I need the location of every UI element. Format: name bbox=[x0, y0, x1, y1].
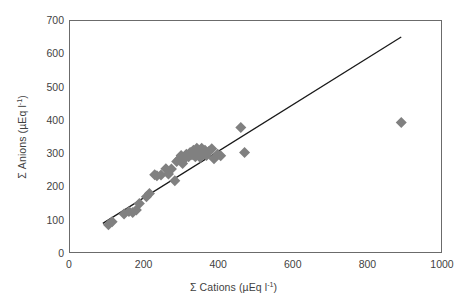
y-axis-title-text: Σ Anions (µEq l bbox=[16, 105, 28, 179]
y-axis-title: Σ Anions (µEq l-1) bbox=[16, 57, 28, 217]
y-tick-label: 400 bbox=[24, 115, 64, 126]
y-tick-label: 700 bbox=[24, 15, 64, 26]
x-tick-label: 200 bbox=[124, 259, 164, 270]
y-axis-title-exponent: -1 bbox=[15, 99, 24, 105]
y-tick-label: 100 bbox=[24, 215, 64, 226]
y-axis-title-tail: ) bbox=[16, 95, 28, 99]
plot-area bbox=[69, 20, 442, 253]
x-axis-title: Σ Cations (µEq l-1) bbox=[0, 281, 467, 293]
data-points-group bbox=[103, 117, 407, 230]
y-tick-label: 300 bbox=[24, 148, 64, 159]
y-tick-label: 200 bbox=[24, 181, 64, 192]
x-tick-label: 400 bbox=[198, 259, 238, 270]
data-point-marker bbox=[235, 122, 246, 133]
data-point-marker bbox=[396, 117, 407, 128]
y-tick-label: 600 bbox=[24, 48, 64, 59]
x-tick-label: 600 bbox=[273, 259, 313, 270]
x-tick-label: 1000 bbox=[422, 259, 462, 270]
x-axis-title-text: Σ Cations (µEq l bbox=[190, 281, 267, 293]
x-axis-title-tail: ) bbox=[274, 281, 278, 293]
y-tick-label: 0 bbox=[24, 248, 64, 259]
x-tick-label: 800 bbox=[347, 259, 387, 270]
x-axis-tick-labels: 02004006008001000 bbox=[0, 259, 467, 275]
scatter-chart-figure: 0100200300400500600700 02004006008001000… bbox=[0, 0, 467, 308]
y-tick-label: 500 bbox=[24, 82, 64, 93]
plot-svg bbox=[70, 21, 443, 254]
x-tick-label: 0 bbox=[49, 259, 89, 270]
data-point-marker bbox=[239, 147, 250, 158]
